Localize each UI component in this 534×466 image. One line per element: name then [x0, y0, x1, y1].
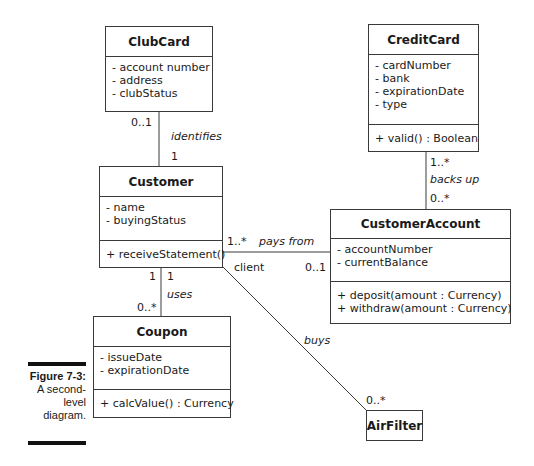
class-customer: Customer - name - buyingStatus + receive…	[99, 166, 223, 268]
figure-caption: Figure 7-3: A second- level diagram.	[0, 370, 86, 422]
operations: + valid() : Boolean	[369, 124, 478, 145]
multiplicity-label: 1	[171, 151, 178, 163]
attribute: - expirationDate	[375, 85, 472, 98]
association-name-buys: buys	[304, 335, 330, 347]
multiplicity-label: 1	[149, 271, 156, 283]
attribute: - bank	[375, 72, 472, 85]
attribute: - name	[106, 201, 216, 214]
operations: + receiveStatement()	[100, 240, 222, 261]
multiplicity-label: 0..*	[366, 395, 386, 407]
class-name: CustomerAccount	[331, 210, 510, 239]
class-customeraccount: CustomerAccount - accountNumber - curren…	[330, 209, 511, 324]
attribute: - type	[375, 98, 472, 111]
association-name-identifies: identifies	[171, 131, 222, 143]
operations: + deposit(amount : Currency) + withdraw(…	[331, 281, 510, 315]
caption-line: level	[0, 396, 86, 409]
attribute: - account number	[112, 61, 206, 74]
multiplicity-label: 1	[167, 271, 174, 283]
operations: + calcValue() : Currency	[94, 389, 230, 410]
association-name-backs-up: backs up	[430, 174, 479, 186]
attribute: - buyingStatus	[106, 214, 216, 227]
attribute: - expirationDate	[100, 364, 224, 377]
attributes: - account number - address - clubStatus	[106, 57, 212, 100]
class-coupon: Coupon - issueDate - expirationDate + ca…	[93, 316, 231, 418]
class-creditcard: CreditCard - cardNumber - bank - expirat…	[368, 24, 479, 152]
figure-label: Figure 7-3:	[0, 370, 86, 383]
uml-class-diagram: ClubCard - account number - address - cl…	[0, 0, 534, 466]
operation: + receiveStatement()	[106, 248, 216, 261]
attributes: - accountNumber - currentBalance	[331, 239, 510, 281]
class-airfilter: AirFilter	[366, 410, 423, 441]
multiplicity-label: 0..*	[137, 302, 157, 314]
association-name-pays-from: pays from	[259, 236, 314, 248]
operation: + valid() : Boolean	[375, 132, 472, 145]
attribute: - address	[112, 74, 206, 87]
attributes: - issueDate - expirationDate	[94, 347, 230, 389]
caption-line: A second-	[0, 383, 86, 396]
class-name: Coupon	[94, 317, 230, 347]
class-name: Customer	[100, 167, 222, 197]
attribute: - clubStatus	[112, 87, 206, 100]
association-name-uses: uses	[167, 289, 192, 301]
class-clubcard: ClubCard - account number - address - cl…	[105, 26, 213, 112]
attribute: - cardNumber	[375, 59, 472, 72]
caption-rule-bottom	[28, 441, 86, 445]
attribute: - currentBalance	[337, 256, 504, 269]
multiplicity-label: 1..*	[430, 157, 450, 169]
class-name: ClubCard	[106, 27, 212, 57]
attributes: - name - buyingStatus	[100, 197, 222, 240]
attributes: - cardNumber - bank - expirationDate - t…	[369, 55, 478, 124]
caption-line: diagram.	[0, 409, 86, 422]
class-name: AirFilter	[367, 411, 422, 440]
operation: + deposit(amount : Currency)	[337, 289, 504, 302]
operation: + calcValue() : Currency	[100, 397, 224, 410]
multiplicity-label: 1..*	[227, 236, 247, 248]
operation: + withdraw(amount : Currency)	[337, 302, 504, 315]
caption-rule-top	[28, 362, 86, 366]
multiplicity-label: 0..1	[131, 117, 152, 129]
multiplicity-label: 0..*	[430, 193, 450, 205]
attribute: - issueDate	[100, 351, 224, 364]
multiplicity-label: 0..1	[305, 262, 326, 274]
class-name: CreditCard	[369, 25, 478, 55]
role-label-client: client	[234, 262, 264, 274]
attribute: - accountNumber	[337, 243, 504, 256]
